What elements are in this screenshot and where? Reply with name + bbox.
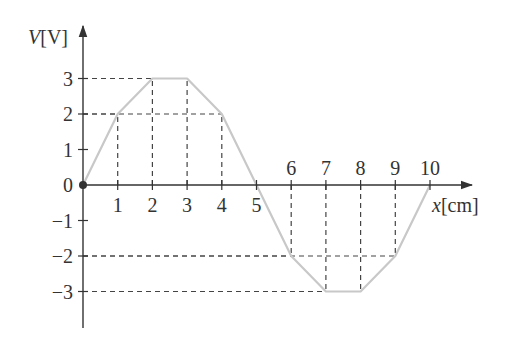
x-tick-label: 2 (147, 194, 157, 216)
axes (79, 26, 472, 328)
x-axis-title: x[cm] (431, 194, 479, 216)
y-tick-label: −3 (52, 281, 73, 303)
y-axis-title: V[V] (28, 26, 68, 48)
y-tick-label: 2 (63, 103, 73, 125)
origin-dot (79, 181, 87, 189)
y-tick-label: 1 (63, 139, 73, 161)
x-tick-label: 3 (182, 194, 192, 216)
y-tick-label: 3 (63, 68, 73, 90)
x-tick-label: 8 (356, 157, 366, 179)
origin-label: 0 (63, 174, 73, 196)
x-tick-label: 5 (252, 194, 262, 216)
x-tick-label: 10 (420, 157, 440, 179)
x-tick-label: 9 (390, 157, 400, 179)
y-tick-label: −2 (52, 245, 73, 267)
x-tick-label: 1 (113, 194, 123, 216)
x-tick-label: 6 (286, 157, 296, 179)
voltage-position-chart: 12345678910−3−2−10123 V[V] x[cm] (0, 0, 514, 339)
x-tick-label: 7 (321, 157, 331, 179)
y-tick-label: −1 (52, 210, 73, 232)
x-tick-label: 4 (217, 194, 227, 216)
